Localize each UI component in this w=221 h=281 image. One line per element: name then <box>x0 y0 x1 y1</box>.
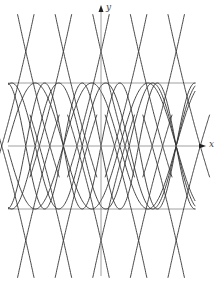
y-axis-label: y <box>106 2 111 12</box>
y-axis-arrow-icon <box>99 5 104 12</box>
x-axis-label: x <box>209 139 214 149</box>
reciprocal-branch <box>0 115 34 278</box>
x-axis-arrow-icon <box>199 144 206 149</box>
function-plot <box>0 0 221 281</box>
reciprocal-branch <box>0 14 34 177</box>
